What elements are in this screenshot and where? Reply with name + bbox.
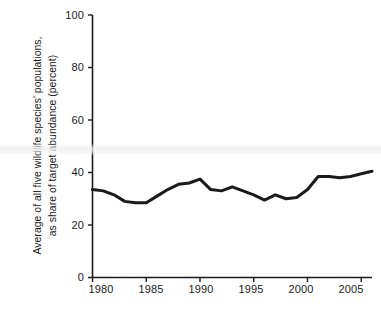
y-tick-label-100: 100 xyxy=(58,9,84,21)
data-line-series-1 xyxy=(93,171,373,203)
y-tick-label-40: 40 xyxy=(60,166,84,178)
y-tick-label-60: 60 xyxy=(60,114,84,126)
x-tick-label-1980: 1980 xyxy=(79,283,123,295)
x-tick-label-1985: 1985 xyxy=(129,283,173,295)
y-axis-title-line-1: Average of all five wildlife species' po… xyxy=(32,36,43,254)
y-tick-label-20: 20 xyxy=(60,219,84,231)
axis-lines xyxy=(93,15,373,278)
y-tick-label-80: 80 xyxy=(60,61,84,73)
y-tick-label-0: 0 xyxy=(60,271,84,283)
chart-figure: Average of all five wildlife species' po… xyxy=(0,0,381,314)
x-tick-label-2005: 2005 xyxy=(329,283,373,295)
x-tick-label-1995: 1995 xyxy=(229,283,273,295)
x-tick-label-2000: 2000 xyxy=(279,283,323,295)
y-axis-title-line-2: as share of target abundance (percent) xyxy=(45,36,60,254)
x-tick-label-1990: 1990 xyxy=(179,283,223,295)
y-axis-title: Average of all five wildlife species' po… xyxy=(14,0,76,290)
